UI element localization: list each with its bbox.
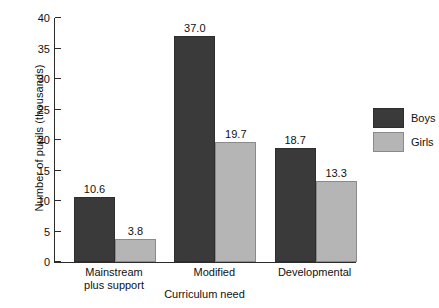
bar-value-label: 18.7 — [284, 134, 305, 146]
bar-value-label: 3.8 — [128, 225, 143, 237]
y-axis-tick: 5 — [55, 231, 61, 232]
bar-girls-0: 3.8 — [115, 239, 156, 262]
bar-value-label: 13.3 — [325, 167, 346, 179]
legend-label-girls: Girls — [411, 136, 434, 148]
chart-legend: Boys Girls — [373, 108, 435, 156]
legend-swatch-boys-icon — [373, 108, 404, 128]
bar-boys-0: 10.6 — [74, 197, 115, 262]
y-axis-tick-label: 10 — [38, 195, 50, 207]
y-axis-tick-label: 5 — [44, 226, 50, 238]
x-axis-category-label-line: Developmental — [244, 266, 386, 279]
y-axis-tick: 0 — [55, 261, 61, 262]
y-axis-tick-label: 30 — [38, 73, 50, 85]
legend-label-boys: Boys — [411, 112, 435, 124]
bar-girls-1: 19.7 — [215, 142, 256, 262]
y-axis-tick-label: 20 — [38, 134, 50, 146]
plot-area: 0510152025303540 10.63.837.019.718.713.3 — [54, 18, 356, 263]
bar-girls-2: 13.3 — [316, 181, 357, 262]
y-axis-tick-label: 40 — [38, 12, 50, 24]
legend-item-boys: Boys — [373, 108, 435, 128]
y-axis-tick: 10 — [55, 200, 61, 201]
y-axis-tick: 40 — [55, 17, 61, 18]
bar-value-label: 37.0 — [184, 22, 205, 34]
y-axis-tick-label: 35 — [38, 43, 50, 55]
legend-swatch-girls-icon — [373, 132, 404, 152]
bar-value-label: 19.7 — [225, 128, 246, 140]
y-axis-tick: 30 — [55, 78, 61, 79]
x-axis-title: Curriculum need — [54, 288, 355, 300]
legend-item-girls: Girls — [373, 132, 435, 152]
bar-boys-1: 37.0 — [174, 36, 215, 262]
y-axis-tick: 20 — [55, 139, 61, 140]
y-axis-tick: 25 — [55, 109, 61, 110]
y-axis-tick-label: 25 — [38, 104, 50, 116]
bar-chart-figure: Number of pupils (thousands) 05101520253… — [0, 0, 439, 308]
y-axis-tick: 35 — [55, 48, 61, 49]
bar-boys-2: 18.7 — [275, 148, 316, 262]
bar-value-label: 10.6 — [84, 183, 105, 195]
y-axis-tick-label: 15 — [38, 165, 50, 177]
y-axis-tick: 15 — [55, 170, 61, 171]
x-axis-category-label: Developmental — [244, 266, 386, 279]
